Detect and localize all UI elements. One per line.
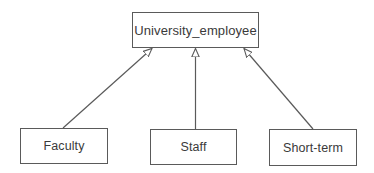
class-label-university-employee: University_employee bbox=[134, 23, 257, 38]
class-box-faculty: Faculty bbox=[20, 128, 108, 164]
class-box-staff: Staff bbox=[150, 129, 237, 165]
edge-faculty-to-parent bbox=[63, 49, 152, 129]
edge-shortterm-to-parent bbox=[244, 49, 313, 130]
class-label-staff: Staff bbox=[181, 140, 207, 154]
class-box-short-term: Short-term bbox=[269, 129, 357, 166]
class-label-short-term: Short-term bbox=[283, 141, 343, 155]
class-label-faculty: Faculty bbox=[44, 139, 85, 153]
class-box-university-employee: University_employee bbox=[132, 12, 259, 48]
class-hierarchy-diagram: University_employee Faculty Staff Short-… bbox=[0, 0, 374, 173]
